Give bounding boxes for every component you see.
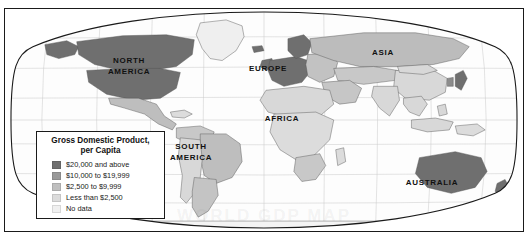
legend-row: $20,000 and above	[42, 159, 159, 170]
legend-swatch-no-data	[52, 205, 61, 213]
legend-swatch-tier-1	[52, 161, 61, 169]
map-legend: Gross Domestic Product, per Capita $20,0…	[36, 131, 165, 219]
legend-swatch-tier-3	[52, 183, 61, 191]
legend-label-no-data: No data	[66, 204, 92, 213]
legend-row: Less than $2,500	[42, 192, 159, 203]
legend-label-tier-2: $10,000 to $19,999	[66, 171, 130, 180]
legend-swatch-tier-2	[52, 172, 61, 180]
legend-label-tier-4: Less than $2,500	[66, 193, 123, 202]
legend-title: Gross Domestic Product, per Capita	[42, 136, 159, 156]
legend-row: $10,000 to $19,999	[42, 170, 159, 181]
legend-label-tier-1: $20,000 and above	[66, 160, 129, 169]
world-map-screenshot: NORTH AMERICA SOUTH AMERICA EUROPE AFRIC…	[0, 0, 528, 247]
legend-swatch-tier-4	[52, 194, 61, 202]
legend-row: $2,500 to $9,999	[42, 181, 159, 192]
region-antarctica	[25, 221, 503, 231]
region-philippines	[437, 104, 447, 116]
legend-label-tier-3: $2,500 to $9,999	[66, 182, 121, 191]
legend-row: No data	[42, 203, 159, 214]
region-korea	[447, 77, 453, 86]
